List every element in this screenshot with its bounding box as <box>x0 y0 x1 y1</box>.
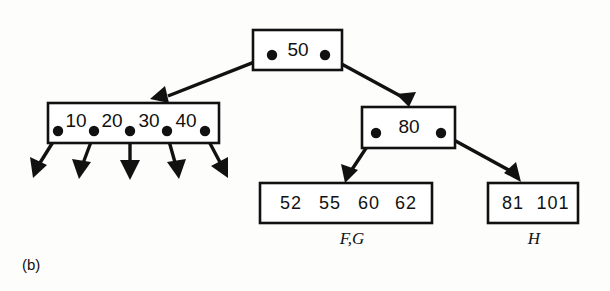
figure-caption: (b) <box>22 256 40 273</box>
internal-left-pointer-3[interactable] <box>162 126 172 136</box>
root-key-0: 50 <box>287 39 308 60</box>
leaf-left-key-2: 60 <box>358 193 380 213</box>
internal-left-pointer-2[interactable] <box>125 126 135 136</box>
leaf-left-key-0: 52 <box>280 193 302 213</box>
root-pointer-0[interactable] <box>267 50 277 60</box>
leaf-left-label: F,G <box>339 229 365 248</box>
internal-left-key-0: 10 <box>65 110 86 131</box>
leaf-left-key-3: 62 <box>395 193 417 213</box>
internal-left-pointer-1[interactable] <box>89 126 99 136</box>
internal-node-left[interactable]: 10 20 30 40 <box>48 103 219 143</box>
internal-left-pointer-0[interactable] <box>53 126 63 136</box>
internal-right-key-0: 80 <box>398 116 419 137</box>
internal-right-pointer-0[interactable] <box>371 128 381 138</box>
leaf-right-label: H <box>527 229 542 248</box>
internal-left-key-3: 40 <box>175 110 196 131</box>
leaf-left-key-1: 55 <box>319 193 341 213</box>
leaf-right-key-1: 101 <box>536 193 569 213</box>
internal-right-pointer-1[interactable] <box>436 128 446 138</box>
root-node[interactable]: 50 <box>253 30 342 70</box>
leaf-right-key-0: 81 <box>502 193 524 213</box>
root-pointer-1[interactable] <box>320 50 330 60</box>
internal-node-right[interactable]: 80 <box>362 107 455 148</box>
leaf-node-right[interactable]: 81 101 <box>488 183 578 223</box>
internal-left-pointer-4[interactable] <box>200 126 210 136</box>
internal-left-key-2: 30 <box>138 110 159 131</box>
btree-figure: 50 10 20 30 40 80 52 55 <box>0 0 610 291</box>
leaf-node-left[interactable]: 52 55 60 62 <box>260 183 432 223</box>
internal-left-key-1: 20 <box>101 110 122 131</box>
